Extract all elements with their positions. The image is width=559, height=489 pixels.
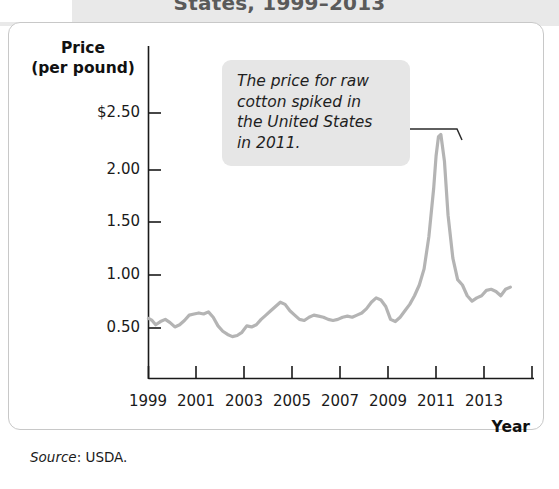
x-tick-label-2007: 2007 <box>313 392 367 410</box>
y-axis-title: Price (per pound) <box>18 38 148 78</box>
y-tick-label-1: 2.00 <box>44 162 140 177</box>
annotation-line-4: in 2011. <box>237 133 397 154</box>
x-tick-label-2001: 2001 <box>169 392 223 410</box>
x-axis-ticks <box>149 366 533 379</box>
annotation-leader-line <box>410 129 462 140</box>
y-axis-title-line-2: (per pound) <box>18 58 148 78</box>
x-tick-label-1999: 1999 <box>121 392 175 410</box>
y-axis-ticks <box>149 113 162 328</box>
y-tick-label-0: $2.50 <box>44 105 140 120</box>
annotation-line-1: The price for raw <box>237 71 397 92</box>
x-tick-label-2009: 2009 <box>361 392 415 410</box>
source-separator: : <box>77 449 86 465</box>
annotation-line-2: cotton spiked in <box>237 92 397 113</box>
annotation-callout: The price for raw cotton spiked in the U… <box>222 60 410 166</box>
x-tick-label-2005: 2005 <box>265 392 319 410</box>
y-tick-label-3: 1.00 <box>44 267 140 282</box>
x-tick-label-2013: 2013 <box>457 392 511 410</box>
source-label: Source <box>30 449 77 465</box>
source-note: Source: USDA. <box>30 449 127 465</box>
y-tick-label-4: 0.50 <box>44 320 140 335</box>
x-tick-label-2003: 2003 <box>217 392 271 410</box>
y-axis-title-line-1: Price <box>18 38 148 58</box>
y-tick-label-2: 1.50 <box>44 214 140 229</box>
annotation-line-3: the United States <box>237 112 397 133</box>
source-value: USDA. <box>86 449 128 465</box>
x-axis-title: Year <box>0 418 530 436</box>
x-tick-label-2011: 2011 <box>409 392 463 410</box>
